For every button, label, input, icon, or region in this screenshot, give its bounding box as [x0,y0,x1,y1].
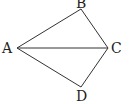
label-d: D [76,88,87,104]
label-a: A [1,40,13,56]
label-b: B [76,0,86,11]
segment-dc [81,48,108,87]
quadrilateral-diagram: A B C D [0,0,134,104]
segment-ad [17,48,81,87]
segment-ab [17,9,81,48]
label-c: C [111,40,122,56]
segment-bc [81,9,108,48]
